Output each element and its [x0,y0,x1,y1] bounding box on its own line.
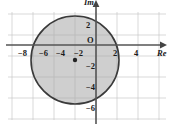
x-tick-label: −2 [74,49,83,58]
x-tick-label: 2 [113,49,117,58]
imaginary-axis-label: Im [84,0,94,7]
y-tick-label: −4 [86,83,95,92]
x-tick-label: −4 [56,49,65,58]
real-axis-label: Re [157,49,166,58]
circle-centre-point [73,58,77,62]
origin-label: O [87,36,94,45]
x-tick-label: −8 [18,49,27,58]
y-tick-label: 2 [86,21,90,30]
x-tick-label: −6 [39,49,48,58]
x-tick-label: 4 [134,49,138,58]
y-tick-label: −6 [86,104,95,113]
argand-diagram-figure: Im Re O −8−6−4−2242−2−4−6 [0,0,174,126]
y-tick-label: −2 [86,62,95,71]
